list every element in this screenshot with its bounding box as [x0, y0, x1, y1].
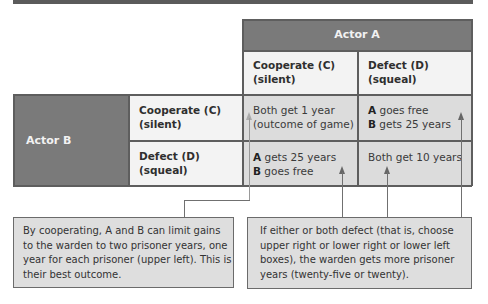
connector-line: [249, 118, 250, 201]
top-rule: [13, 0, 473, 4]
grid-line: [242, 19, 472, 21]
connector-line: [387, 172, 388, 218]
cell-cd-b-text: gets 25 years: [376, 118, 451, 130]
cell-defect-defect: Both get 10 years: [357, 140, 472, 186]
cell-dc-b-label: B: [253, 165, 261, 177]
row-defect-line1: Defect (D): [139, 149, 242, 163]
row-cooperate-line2: (silent): [139, 117, 242, 131]
connector-line: [461, 118, 462, 218]
cell-cd-b-label: B: [368, 118, 376, 130]
cell-dc-b-text: goes free: [261, 165, 313, 177]
cell-cooperate-cooperate: Both get 1 year (outcome of game): [242, 94, 357, 140]
cell-cd-a-label: A: [368, 104, 376, 116]
note-cooperation-text: By cooperating, A and B can limit gains …: [23, 225, 232, 280]
grid-line: [357, 50, 359, 186]
note-cooperation: By cooperating, A and B can limit gains …: [13, 217, 234, 288]
grid-line: [128, 140, 472, 142]
cell-dc-a-text: gets 25 years: [261, 151, 336, 163]
cell-cc-line2: (outcome of game): [253, 117, 357, 131]
column-header-defect: Defect (D) (squeal): [357, 50, 472, 94]
actor-a-label: Actor A: [334, 28, 380, 41]
column-defect-line1: Defect (D): [368, 58, 472, 72]
column-header-cooperate: Cooperate (C) (silent): [242, 50, 357, 94]
row-header-cooperate: Cooperate (C) (silent): [128, 94, 242, 140]
grid-line: [13, 185, 472, 187]
grid-line: [13, 94, 472, 96]
cell-dd-line1: Both get 10 years: [368, 150, 472, 164]
cell-cc-line1: Both get 1 year: [253, 103, 357, 117]
cell-defect-cooperate: A gets 25 years B goes free: [242, 140, 357, 186]
connector-line: [184, 200, 250, 201]
connector-line: [342, 172, 343, 218]
grid-line: [242, 50, 472, 52]
row-header-defect: Defect (D) (squeal): [128, 140, 242, 186]
actor-b-header: Actor B: [13, 94, 128, 186]
actor-a-header: Actor A: [242, 19, 472, 50]
grid-line: [242, 19, 244, 186]
cell-cd-a-text: goes free: [376, 104, 428, 116]
row-cooperate-line1: Cooperate (C): [139, 103, 242, 117]
cell-dc-a-label: A: [253, 151, 261, 163]
grid-line: [471, 19, 473, 186]
note-defection-text: If either or both defect (that is, choos…: [260, 225, 454, 280]
column-cooperate-line1: Cooperate (C): [253, 58, 357, 72]
cell-cooperate-defect: A goes free B gets 25 years: [357, 94, 472, 140]
note-defection: If either or both defect (that is, choos…: [247, 217, 472, 289]
row-defect-line2: (squeal): [139, 163, 242, 177]
connector-line: [184, 200, 185, 217]
column-cooperate-line2: (silent): [253, 72, 357, 86]
actor-b-label: Actor B: [26, 134, 72, 147]
column-defect-line2: (squeal): [368, 72, 472, 86]
grid-line: [13, 94, 15, 186]
